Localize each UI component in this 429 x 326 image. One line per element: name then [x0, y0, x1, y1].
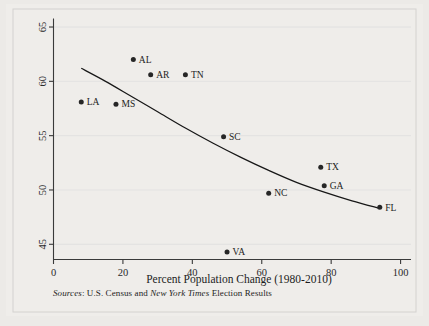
- chart-plot-area: 4550556065 020406080100 LAMSALARTNSCVANC…: [0, 0, 429, 326]
- data-point-label: MS: [121, 99, 135, 109]
- data-point-labels-group: LAMSALARTNSCVANCTXGAFL: [87, 55, 397, 257]
- y-tick-label: 45: [37, 239, 48, 250]
- y-tick-label: 50: [37, 185, 48, 196]
- x-tick-label: 0: [51, 267, 56, 278]
- data-point-label: VA: [233, 247, 246, 257]
- data-point-marker: [79, 99, 84, 104]
- x-tick-label: 100: [393, 267, 409, 278]
- data-point-label: FL: [385, 203, 396, 213]
- data-point-label: TN: [191, 70, 204, 80]
- data-point-marker: [183, 72, 188, 77]
- data-point-label: SC: [229, 132, 241, 142]
- axis-spines-group: [13, 9, 416, 312]
- data-point-label: TX: [326, 162, 339, 172]
- scatter-chart-svg: 4550556065 020406080100 LAMSALARTNSCVANC…: [0, 0, 429, 326]
- source-note-publication: New York Times: [150, 288, 209, 298]
- data-point-marker: [221, 134, 226, 139]
- data-point-marker: [377, 205, 382, 210]
- data-point-label: AR: [156, 70, 170, 80]
- source-note-suffix: Election Results: [209, 288, 272, 298]
- data-point-label: GA: [330, 181, 344, 191]
- data-point-marker: [322, 183, 327, 188]
- y-tick-label: 60: [37, 76, 48, 87]
- data-point-marker: [148, 72, 153, 77]
- figure-container: 4550556065 020406080100 LAMSALARTNSCVANC…: [0, 0, 429, 326]
- y-axis-tick-labels: 4550556065: [37, 22, 48, 250]
- x-axis-title: Percent Population Change (1980-2010): [146, 273, 332, 286]
- data-point-marker: [266, 191, 271, 196]
- data-point-marker: [318, 165, 323, 170]
- y-tick-label: 65: [37, 22, 48, 32]
- source-note: Sources: U.S. Census and New York Times …: [53, 288, 272, 298]
- source-note-prefix-rest: : U.S. Census and: [82, 288, 150, 298]
- data-point-label: NC: [274, 188, 287, 198]
- source-note-prefix-italic: Sources: [53, 288, 82, 298]
- data-point-marker: [131, 57, 136, 62]
- data-markers-group: [79, 57, 382, 254]
- data-point-label: LA: [87, 97, 100, 107]
- data-point-marker: [225, 249, 230, 254]
- data-point-marker: [113, 102, 118, 107]
- y-tick-label: 55: [37, 130, 48, 141]
- x-tick-label: 20: [118, 267, 129, 278]
- axis-ticks-group: [49, 27, 401, 264]
- data-point-label: AL: [139, 55, 152, 65]
